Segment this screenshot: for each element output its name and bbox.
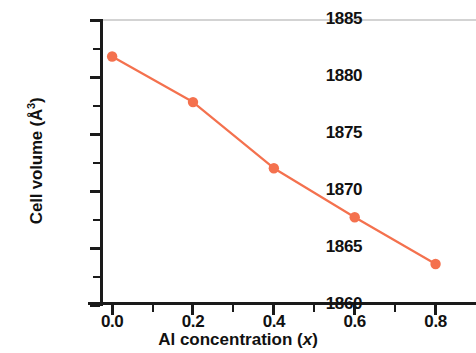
y-tick-minor: [93, 276, 100, 278]
data-point-marker: [107, 51, 117, 61]
data-point-marker: [188, 97, 198, 107]
plot-area: 186018651870187518801885 0.00.20.40.60.8: [100, 20, 476, 305]
x-tick-minor: [394, 305, 396, 312]
y-tick-major: [90, 133, 100, 136]
y-tick-minor: [93, 162, 100, 164]
y-tick-minor: [93, 48, 100, 50]
y-axis-title: Cell volume (Å3): [25, 61, 47, 261]
data-point-marker: [269, 163, 279, 173]
x-axis-title-variable: x: [303, 330, 312, 349]
x-axis-title-text: Al concentration (: [158, 330, 303, 349]
y-tick-minor: [93, 219, 100, 221]
y-tick-major: [90, 190, 100, 193]
y-tick-major: [90, 76, 100, 79]
x-tick-label: 0.6: [320, 312, 390, 332]
y-axis-title-superscript: 3: [25, 103, 37, 109]
x-tick-label: 0.4: [239, 312, 309, 332]
y-tick-minor: [93, 105, 100, 107]
x-axis-title-tail: ): [312, 330, 318, 349]
y-axis-title-tail: ): [27, 98, 46, 103]
x-axis-title: Al concentration (x): [0, 330, 476, 350]
chart-figure: Cell volume (Å3) Al concentration (x) 18…: [0, 0, 476, 353]
data-point-marker: [350, 212, 360, 222]
y-tick-major: [90, 247, 100, 250]
x-tick-minor: [152, 305, 154, 312]
x-tick-label: 0.2: [158, 312, 228, 332]
y-axis-title-text: Cell volume (Å: [27, 109, 46, 224]
x-tick-label: 0.0: [77, 312, 147, 332]
y-tick-major: [90, 19, 100, 22]
series-markers: [107, 51, 441, 269]
data-point-marker: [430, 259, 440, 269]
data-series-layer: [100, 20, 476, 305]
x-tick-minor: [232, 305, 234, 312]
series-line: [112, 56, 435, 263]
y-tick-major: [90, 304, 100, 307]
x-tick-minor: [313, 305, 315, 312]
x-tick-label: 0.8: [401, 312, 471, 332]
